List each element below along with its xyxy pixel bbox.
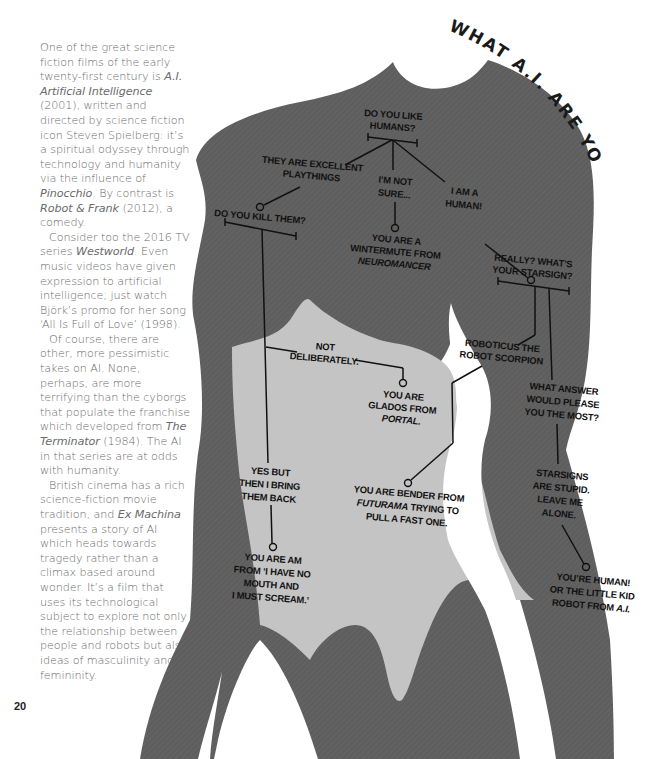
flowchart-illustration: WHAT A.I. ARE YOU? — [0, 0, 659, 759]
node-please: WHAT ANSWER WOULD PLEASE YOU THE MOST? — [524, 380, 602, 423]
node-start: DO YOU LIKE HUMANS? — [363, 107, 423, 134]
book-page: One of the great science fiction films o… — [0, 0, 659, 759]
node-human-result-italic: A.I. — [615, 602, 631, 614]
node-not-deliberately-line1: NOT — [315, 340, 336, 353]
node-human-result: YOU’RE HUMAN! OR THE LITTLE KID ROBOT FR… — [548, 570, 636, 614]
